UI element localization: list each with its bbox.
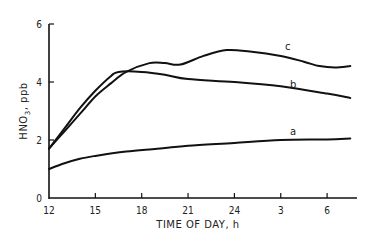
hno3-line-chart: 0246 121518212436 TIME OF DAY, h HNO3, p…	[0, 0, 372, 241]
y-axis-title: HNO3, ppb	[18, 82, 32, 139]
y-axis	[49, 24, 54, 199]
curve-c	[49, 50, 350, 149]
curve-label-c: c	[285, 41, 291, 52]
y-tick-label: 6	[36, 19, 42, 30]
y-axis-title-main: HNO	[18, 115, 29, 139]
x-tick-label: 18	[136, 205, 148, 216]
x-axis	[49, 193, 357, 198]
x-tick-label: 12	[43, 205, 54, 216]
x-tick-label: 15	[90, 205, 101, 216]
y-axis-title-unit: , ppb	[18, 82, 29, 110]
curve-label-b: b	[290, 79, 296, 90]
x-tick-label: 24	[229, 205, 241, 216]
x-tick-label: 6	[324, 205, 330, 216]
curve-a	[49, 139, 350, 169]
curve-b	[49, 71, 350, 148]
x-tick-label: 21	[182, 205, 193, 216]
y-tick-label: 2	[36, 135, 42, 146]
plot-curves	[49, 50, 350, 169]
x-tick-labels: 121518212436	[43, 205, 330, 216]
y-tick-label: 0	[36, 193, 42, 204]
curve-label-a: a	[290, 126, 296, 137]
x-tick-label: 3	[278, 205, 284, 216]
y-tick-labels: 0246	[36, 19, 42, 204]
x-axis-title: TIME OF DAY, h	[155, 219, 239, 230]
y-tick-label: 4	[36, 77, 42, 88]
